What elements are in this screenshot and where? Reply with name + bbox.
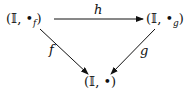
node-top-left-close: )	[36, 11, 41, 26]
arrow-g	[111, 29, 155, 74]
node-bottom: (𝕀, •)	[84, 75, 116, 88]
node-top-left-open: (𝕀, •	[6, 11, 33, 26]
node-top-left: (𝕀, •f)	[6, 12, 42, 28]
node-top-right: (𝕀, •g)	[146, 12, 184, 28]
node-bottom-text: (𝕀, •)	[84, 74, 116, 89]
arrow-f	[40, 29, 88, 74]
node-top-right-close: )	[179, 11, 184, 26]
label-g: g	[140, 44, 148, 57]
label-f: f	[49, 43, 54, 56]
label-h: h	[94, 3, 102, 16]
node-top-right-open: (𝕀, •	[146, 11, 173, 26]
